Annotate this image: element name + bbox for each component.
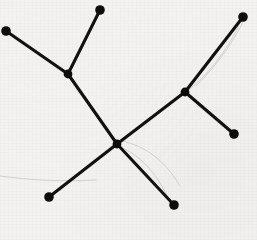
tree-graph-figure: [0, 0, 257, 240]
graph-edge: [117, 144, 174, 205]
tree-graph-canvas: [0, 0, 257, 240]
graph-internal-node: [113, 140, 122, 149]
graph-edge: [6, 31, 68, 74]
graph-edge: [49, 144, 117, 197]
graph-leaf-node: [229, 129, 239, 139]
graph-leaf-node: [1, 26, 11, 36]
graph-node-layer: [1, 5, 248, 210]
graph-edge: [68, 10, 100, 74]
graph-internal-node: [181, 88, 190, 97]
graph-edge: [117, 92, 185, 144]
graph-edge-layer: [6, 10, 243, 205]
graph-leaf-node: [169, 200, 179, 210]
graph-leaf-node: [238, 12, 248, 22]
graph-leaf-node: [95, 5, 105, 15]
graph-edge: [185, 17, 243, 92]
scan-scratch-artifact: [0, 176, 96, 181]
graph-edge: [68, 74, 117, 144]
scan-scratch-artifact: [189, 28, 238, 90]
graph-edge: [185, 92, 234, 134]
graph-leaf-node: [44, 192, 54, 202]
graph-internal-node: [64, 70, 73, 79]
